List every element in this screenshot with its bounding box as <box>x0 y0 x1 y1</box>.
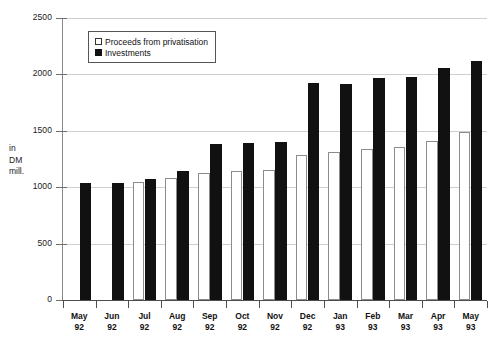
x-axis-label: Jan93 <box>324 311 357 333</box>
x-axis-label-line-1: Nov <box>259 311 292 322</box>
y-axis-tick-label: 1500 <box>8 126 52 135</box>
bar-investments <box>145 179 157 300</box>
x-axis-tick <box>259 301 260 308</box>
x-axis-label: Aug92 <box>161 311 194 333</box>
y-axis-tick-label-text: 2000 <box>16 69 52 78</box>
y-axis-tick-label: 1000 <box>8 182 52 191</box>
bar-proceeds-from-privatisation <box>198 173 210 300</box>
x-axis-label-line-1: Feb <box>357 311 390 322</box>
x-axis-label-line-2: 93 <box>454 322 487 333</box>
x-axis-label-line-2: 92 <box>96 322 129 333</box>
bar-proceeds-from-privatisation <box>328 152 340 300</box>
bar-proceeds-from-privatisation <box>394 147 406 300</box>
x-axis-label-line-2: 92 <box>226 322 259 333</box>
x-axis-tick <box>226 301 227 308</box>
legend-item: Proceeds from privatisation <box>95 36 208 47</box>
bar-proceeds-from-privatisation <box>133 182 145 300</box>
x-axis-label-line-1: Mar <box>389 311 422 322</box>
y-axis-tick-label-text: 1500 <box>16 126 52 135</box>
x-axis-label: May93 <box>454 311 487 333</box>
bar-group <box>394 18 418 300</box>
x-axis-tick <box>63 301 64 308</box>
x-axis-tick <box>96 301 97 308</box>
x-axis-label: Dec92 <box>291 311 324 333</box>
x-axis-line <box>62 300 487 301</box>
bar-proceeds-from-privatisation <box>231 171 243 300</box>
x-axis-label-line-1: Aug <box>161 311 194 322</box>
bar-group <box>328 18 352 300</box>
legend-swatch-open-icon <box>95 38 102 45</box>
legend-label: Proceeds from privatisation <box>105 37 208 47</box>
x-axis-label: Jul92 <box>128 311 161 333</box>
bar-investments <box>243 143 255 300</box>
bar-group <box>263 18 287 300</box>
legend-swatch-filled-icon <box>95 49 102 56</box>
bar-proceeds-from-privatisation <box>361 149 373 300</box>
bar-investments <box>177 171 189 300</box>
bar-proceeds-from-privatisation <box>459 132 471 300</box>
axis-unit-line-1: in <box>9 143 24 155</box>
x-axis-tick <box>291 301 292 308</box>
x-axis-label-line-2: 93 <box>389 322 422 333</box>
x-axis-tick <box>487 301 488 308</box>
x-axis-tick <box>324 301 325 308</box>
axis-unit-line-2: DM <box>9 155 24 167</box>
bar-chart: 25002000150010005000 May92Jun92Jul92Aug9… <box>0 0 503 348</box>
bar-investments <box>406 77 418 300</box>
x-axis-label-line-2: 93 <box>357 322 390 333</box>
x-axis-tick <box>161 301 162 308</box>
bar-group <box>361 18 385 300</box>
x-axis-tick <box>193 301 194 308</box>
x-axis-label: Apr93 <box>422 311 455 333</box>
x-axis-tick <box>357 301 358 308</box>
y-axis-tick <box>56 74 67 75</box>
x-axis-label-line-2: 93 <box>324 322 357 333</box>
legend-item: Investments <box>95 47 208 58</box>
y-axis-unit-label: in DM mill. <box>9 143 24 178</box>
x-axis-label-line-1: Oct <box>226 311 259 322</box>
bar-group <box>296 18 320 300</box>
x-axis-label-line-1: Dec <box>291 311 324 322</box>
y-axis-tick-label-text: 2500 <box>16 13 52 22</box>
x-axis-label-line-2: 93 <box>422 322 455 333</box>
bar-proceeds-from-privatisation <box>263 170 275 300</box>
bar-proceeds-from-privatisation <box>296 155 308 301</box>
x-axis-tick <box>422 301 423 308</box>
y-axis-line <box>62 18 63 301</box>
chart-legend: Proceeds from privatisationInvestments <box>88 31 216 63</box>
x-axis-label: Feb93 <box>357 311 390 333</box>
y-axis-tick <box>56 187 67 188</box>
bar-investments <box>275 142 287 300</box>
x-axis-label-line-1: Apr <box>422 311 455 322</box>
y-axis-tick <box>56 18 67 19</box>
y-axis-tick-label-text: 500 <box>16 239 52 248</box>
x-axis-label-line-1: May <box>454 311 487 322</box>
bar-group <box>426 18 450 300</box>
bar-investments <box>340 84 352 300</box>
y-axis-tick-label: 0 <box>8 295 52 304</box>
x-axis-label: Jun92 <box>96 311 129 333</box>
x-axis-label-line-1: Jan <box>324 311 357 322</box>
legend-label: Investments <box>105 48 151 58</box>
bar-investments <box>438 68 450 300</box>
bar-investments <box>471 61 483 300</box>
y-axis-tick-label: 2500 <box>8 13 52 22</box>
y-axis-tick <box>56 131 67 132</box>
y-axis-tick-label-text: 0 <box>16 295 52 304</box>
y-axis-tick-label: 2000 <box>8 69 52 78</box>
x-axis-label-line-2: 92 <box>161 322 194 333</box>
x-axis-label-line-1: Jun <box>96 311 129 322</box>
x-axis-label: Sep92 <box>193 311 226 333</box>
axis-unit-line-3: mill. <box>9 166 24 178</box>
x-axis-tick <box>454 301 455 308</box>
x-axis-label-line-2: 92 <box>193 322 226 333</box>
x-axis-label: Nov92 <box>259 311 292 333</box>
bar-investments <box>210 144 222 300</box>
bar-group <box>459 18 483 300</box>
y-axis-tick-label-text: 1000 <box>16 182 52 191</box>
x-axis-label-line-1: May <box>63 311 96 322</box>
x-axis-label-line-2: 92 <box>291 322 324 333</box>
x-axis-tick <box>128 301 129 308</box>
bar-investments <box>80 183 92 300</box>
x-axis-label-line-2: 92 <box>63 322 96 333</box>
